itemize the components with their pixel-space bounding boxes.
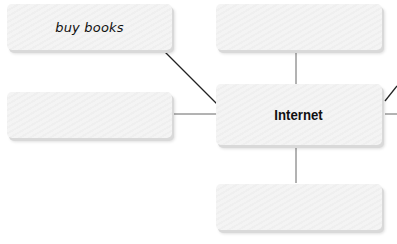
mind-map-canvas: buy books Internet [0, 0, 397, 244]
node-internet-center[interactable]: Internet [216, 84, 382, 145]
node-left-middle[interactable] [7, 92, 172, 138]
edge-internet-upper-right [385, 86, 397, 101]
node-label: buy books [55, 20, 124, 35]
node-top-center[interactable] [216, 4, 382, 50]
node-buy-books[interactable]: buy books [7, 4, 172, 50]
center-node-label: Internet [275, 106, 323, 123]
edge-internet-buy-books [165, 52, 217, 104]
node-bottom-center[interactable] [216, 184, 382, 230]
